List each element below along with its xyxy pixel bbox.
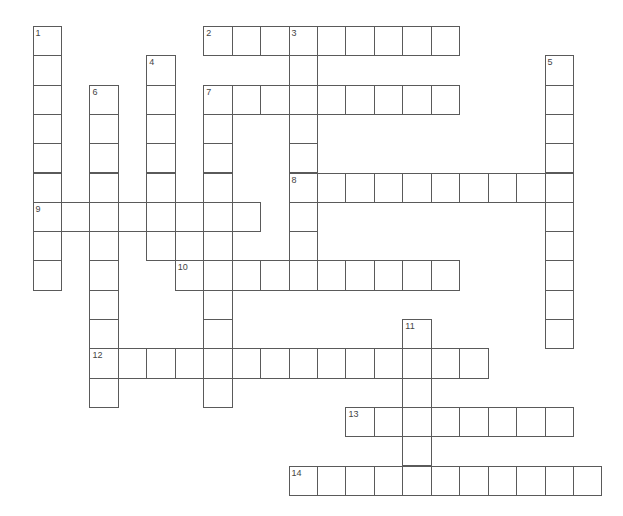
crossword-cell[interactable]: 7 — [203, 85, 232, 115]
crossword-cell[interactable] — [232, 202, 261, 232]
crossword-cell[interactable] — [146, 85, 175, 115]
crossword-cell[interactable]: 1 — [33, 26, 62, 56]
crossword-cell[interactable] — [459, 173, 488, 203]
crossword-cell[interactable] — [89, 173, 118, 203]
crossword-cell[interactable] — [516, 466, 545, 496]
crossword-cell[interactable] — [374, 26, 403, 56]
crossword-cell[interactable] — [374, 348, 403, 378]
crossword-cell[interactable] — [146, 231, 175, 261]
crossword-cell[interactable] — [488, 407, 517, 437]
crossword-cell[interactable] — [203, 114, 232, 144]
crossword-cell[interactable] — [545, 231, 574, 261]
crossword-cell[interactable] — [545, 114, 574, 144]
crossword-cell[interactable] — [402, 348, 431, 378]
crossword-cell[interactable] — [374, 85, 403, 115]
crossword-cell[interactable] — [459, 466, 488, 496]
crossword-cell[interactable]: 8 — [289, 173, 318, 203]
crossword-cell[interactable] — [146, 173, 175, 203]
crossword-cell[interactable] — [89, 231, 118, 261]
crossword-cell[interactable] — [545, 319, 574, 349]
crossword-cell[interactable] — [345, 348, 374, 378]
crossword-cell[interactable]: 11 — [402, 319, 431, 349]
crossword-cell[interactable] — [289, 55, 318, 85]
crossword-cell[interactable]: 2 — [203, 26, 232, 56]
crossword-cell[interactable] — [459, 348, 488, 378]
crossword-cell[interactable] — [289, 260, 318, 290]
crossword-cell[interactable] — [545, 173, 574, 203]
crossword-cell[interactable] — [89, 114, 118, 144]
crossword-cell[interactable] — [345, 466, 374, 496]
crossword-cell[interactable] — [260, 348, 289, 378]
crossword-cell[interactable] — [402, 466, 431, 496]
crossword-cell[interactable] — [61, 202, 90, 232]
crossword-cell[interactable] — [345, 85, 374, 115]
crossword-cell[interactable] — [33, 55, 62, 85]
crossword-cell[interactable] — [431, 407, 460, 437]
crossword-cell[interactable] — [175, 348, 204, 378]
crossword-cell[interactable] — [431, 26, 460, 56]
crossword-cell[interactable] — [402, 26, 431, 56]
crossword-cell[interactable] — [317, 348, 346, 378]
crossword-cell[interactable] — [260, 26, 289, 56]
crossword-cell[interactable] — [345, 173, 374, 203]
crossword-cell[interactable] — [545, 290, 574, 320]
crossword-cell[interactable] — [118, 202, 147, 232]
crossword-cell[interactable] — [516, 407, 545, 437]
crossword-cell[interactable] — [33, 260, 62, 290]
crossword-cell[interactable] — [232, 348, 261, 378]
crossword-cell[interactable] — [203, 173, 232, 203]
crossword-cell[interactable] — [374, 173, 403, 203]
crossword-cell[interactable] — [374, 466, 403, 496]
crossword-cell[interactable] — [203, 202, 232, 232]
crossword-cell[interactable] — [345, 260, 374, 290]
crossword-cell[interactable]: 12 — [89, 348, 118, 378]
crossword-cell[interactable] — [289, 231, 318, 261]
crossword-cell[interactable] — [374, 260, 403, 290]
crossword-cell[interactable] — [33, 85, 62, 115]
crossword-cell[interactable] — [545, 143, 574, 173]
crossword-cell[interactable] — [232, 85, 261, 115]
crossword-cell[interactable] — [232, 260, 261, 290]
crossword-cell[interactable]: 3 — [289, 26, 318, 56]
crossword-cell[interactable] — [431, 466, 460, 496]
crossword-cell[interactable]: 10 — [175, 260, 204, 290]
crossword-cell[interactable] — [545, 260, 574, 290]
crossword-cell[interactable]: 4 — [146, 55, 175, 85]
crossword-cell[interactable] — [175, 202, 204, 232]
crossword-cell[interactable]: 6 — [89, 85, 118, 115]
crossword-cell[interactable] — [203, 378, 232, 408]
crossword-cell[interactable] — [89, 260, 118, 290]
crossword-cell[interactable] — [374, 407, 403, 437]
crossword-cell[interactable] — [89, 202, 118, 232]
crossword-cell[interactable] — [317, 466, 346, 496]
crossword-cell[interactable] — [289, 348, 318, 378]
crossword-cell[interactable] — [459, 407, 488, 437]
crossword-cell[interactable] — [402, 378, 431, 408]
crossword-cell[interactable]: 14 — [289, 466, 318, 496]
crossword-cell[interactable] — [260, 85, 289, 115]
crossword-cell[interactable] — [545, 466, 574, 496]
crossword-cell[interactable] — [33, 173, 62, 203]
crossword-cell[interactable] — [431, 348, 460, 378]
crossword-cell[interactable] — [488, 173, 517, 203]
crossword-cell[interactable] — [317, 260, 346, 290]
crossword-cell[interactable] — [289, 143, 318, 173]
crossword-cell[interactable] — [89, 378, 118, 408]
crossword-cell[interactable] — [402, 407, 431, 437]
crossword-cell[interactable] — [289, 202, 318, 232]
crossword-cell[interactable] — [402, 260, 431, 290]
crossword-cell[interactable] — [146, 143, 175, 173]
crossword-cell[interactable] — [33, 143, 62, 173]
crossword-cell[interactable] — [289, 114, 318, 144]
crossword-cell[interactable] — [545, 202, 574, 232]
crossword-cell[interactable] — [260, 260, 289, 290]
crossword-cell[interactable]: 13 — [345, 407, 374, 437]
crossword-cell[interactable] — [402, 436, 431, 466]
crossword-cell[interactable] — [545, 407, 574, 437]
crossword-cell[interactable] — [317, 173, 346, 203]
crossword-cell[interactable] — [203, 143, 232, 173]
crossword-cell[interactable] — [402, 173, 431, 203]
crossword-cell[interactable] — [545, 85, 574, 115]
crossword-cell[interactable]: 9 — [33, 202, 62, 232]
crossword-cell[interactable] — [516, 173, 545, 203]
